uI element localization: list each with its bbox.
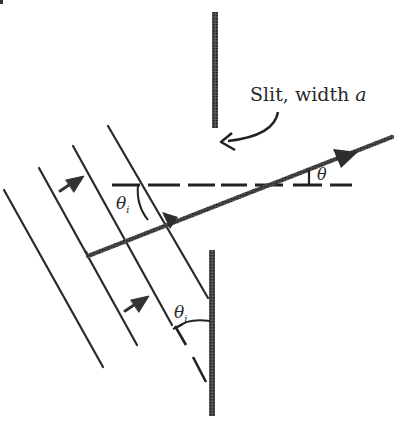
ray — [86, 137, 392, 256]
upper-slit-barrier — [212, 12, 218, 128]
corner-mark — [0, 0, 3, 4]
diagram-svg: Slit, width a θ θi θi — [0, 0, 399, 421]
propagation-arrows — [60, 176, 149, 312]
slit-label: Slit, width a — [250, 83, 367, 105]
arrow-lower-icon — [125, 296, 149, 312]
lower-normal-dashed — [175, 326, 206, 382]
diffraction-diagram: Slit, width a θ θi θi — [0, 0, 399, 421]
slit-pointer-arrow — [221, 112, 278, 150]
theta-i-label-lower: θi — [174, 302, 187, 324]
theta-label: θ — [317, 165, 327, 184]
arrow-upper-icon — [60, 176, 84, 192]
lower-slit-barrier — [209, 250, 215, 416]
theta-i-label-upper: θi — [116, 193, 129, 215]
wavefront-1 — [4, 190, 103, 367]
wavefront-3 — [73, 146, 172, 325]
